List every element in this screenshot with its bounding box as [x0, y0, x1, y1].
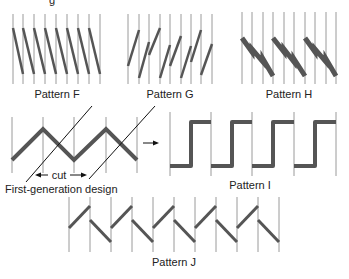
cropped-caption: g [49, 0, 55, 6]
transform-arrow [143, 141, 159, 146]
pattern-i-figure: Pattern I [170, 112, 336, 191]
pattern-g-label: Pattern G [146, 88, 193, 100]
pattern-g-figure: Pattern G [128, 14, 212, 100]
pattern-h-grid [242, 12, 336, 84]
first-generation-figure: cut First-generation design [5, 106, 155, 195]
first-generation-label: First-generation design [5, 183, 118, 195]
arrow-right-icon [81, 173, 87, 178]
pattern-h-figure: Pattern H [242, 12, 336, 100]
cut-label: cut [52, 169, 67, 181]
pattern-diagram: g Pattern F [0, 0, 349, 279]
pattern-j-grid [69, 197, 279, 252]
pattern-h-bands [242, 38, 336, 76]
arrow-right-icon [153, 141, 159, 146]
arrow-left-icon [35, 173, 41, 178]
pattern-i-label: Pattern I [229, 179, 271, 191]
pattern-h-label: Pattern H [266, 88, 313, 100]
pattern-j-figure: Pattern J [69, 197, 279, 268]
pattern-i-bands [170, 122, 336, 166]
pattern-f-figure: Pattern F [13, 14, 100, 100]
pattern-f-label: Pattern F [34, 88, 80, 100]
pattern-j-label: Pattern J [152, 256, 196, 268]
